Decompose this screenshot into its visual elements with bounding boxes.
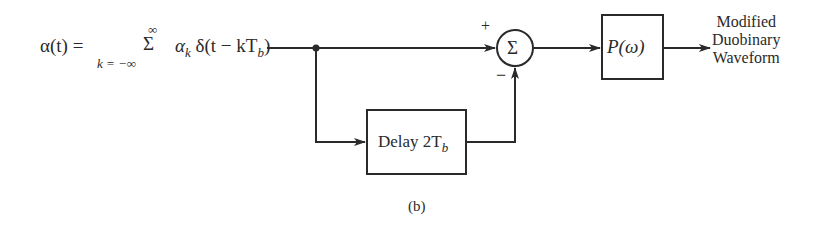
term-alpha: α	[175, 35, 185, 56]
output-label-line1: Modified	[712, 13, 780, 31]
branch-to-delay-line	[316, 48, 365, 142]
sum-symbol: Σ	[143, 34, 154, 53]
figure-caption: (b)	[408, 199, 426, 214]
filter-block-label: P(ω)	[607, 37, 645, 56]
delay-label-text: Delay 2T	[378, 132, 442, 151]
output-label-line2: Duobinary	[712, 31, 780, 49]
delay-block-label: Delay 2Tb	[378, 133, 448, 154]
input-equation-rhs: αk δ(t − kTb)	[175, 36, 270, 59]
delay-to-summer-line	[466, 68, 515, 142]
output-label-line3: Waveform	[712, 49, 780, 67]
summer-minus-sign: −	[496, 66, 506, 84]
summer-plus-sign: +	[481, 18, 490, 34]
delay-label-subscript: b	[442, 140, 449, 155]
term-alpha-subscript: k	[185, 45, 191, 60]
summer-sigma-icon: Σ	[507, 38, 518, 57]
output-label: Modified Duobinary Waveform	[712, 13, 780, 67]
term-close: )	[264, 35, 270, 56]
sum-lower-limit: k = −∞	[97, 57, 136, 70]
input-equation-lhs: α(t) =	[40, 36, 83, 55]
block-diagram: α(t) = ∞ Σ k = −∞ αk δ(t − kTb) + − Σ P(…	[0, 0, 838, 227]
term-delta: δ(t − kT	[196, 35, 258, 56]
